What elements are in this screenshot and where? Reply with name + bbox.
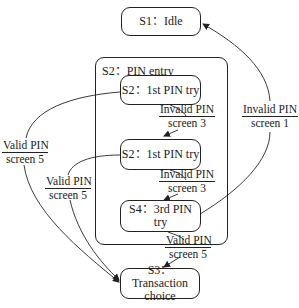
transition-event: Invalid PIN: [159, 103, 215, 117]
transition-action: screen 5: [45, 189, 91, 202]
transition-label-s2a-s2b: Invalid PIN screen 3: [159, 103, 215, 130]
state-s2a-label: S2：1st PIN try: [122, 84, 199, 97]
transition-label-s4-s3: Valid PIN screen 5: [165, 234, 211, 261]
state-s2b-label: S2：1st PIN try: [122, 148, 199, 161]
transition-action: screen 3: [159, 182, 215, 195]
transition-event: Invalid PIN: [242, 103, 298, 117]
state-s1-label: S1：Idle: [139, 15, 182, 28]
transition-event: Valid PIN: [45, 175, 91, 189]
transition-action: screen 5: [2, 153, 48, 166]
transition-label-s2a-s3: Valid PIN screen 5: [2, 139, 48, 166]
transition-label-s2b-s3: Valid PIN screen 5: [45, 175, 91, 202]
transition-action: screen 1: [242, 117, 298, 130]
state-s1-idle: S1：Idle: [121, 7, 201, 36]
state-s2-first-try-b: S2：1st PIN try: [120, 139, 201, 170]
state-s4-label: S4：3rd PIN try: [121, 203, 200, 229]
transition-event: Invalid PIN: [159, 168, 215, 182]
state-diagram: S1：Idle S2：PIN entry S2：1st PIN try S2：1…: [0, 0, 299, 308]
state-s4-third-try: S4：3rd PIN try: [120, 200, 201, 232]
state-s3-label-line1: S3：Transaction: [121, 264, 199, 290]
state-s2-first-try-a: S2：1st PIN try: [120, 75, 201, 105]
transition-event: Valid PIN: [165, 234, 211, 248]
transition-event: Valid PIN: [2, 139, 48, 153]
transition-action: screen 5: [165, 248, 211, 261]
transition-action: screen 3: [159, 117, 215, 130]
state-s3-label-line2: choice: [144, 290, 175, 303]
transition-label-s4-s1: Invalid PIN screen 1: [242, 103, 298, 130]
transition-label-s2b-s4: Invalid PIN screen 3: [159, 168, 215, 195]
state-s3-transaction-choice: S3：Transaction choice: [120, 268, 200, 299]
